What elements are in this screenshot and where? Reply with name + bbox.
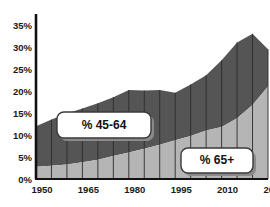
- callout-upper-label: % 45-64: [82, 118, 127, 132]
- y-tick-label: 15%: [13, 108, 33, 119]
- stacked-area-chart: 0%5%10%15%20%25%30%35% 19501965198019952…: [0, 0, 270, 207]
- x-tick-label: 1950: [31, 184, 52, 195]
- callout-upper: % 45-64: [57, 112, 154, 141]
- x-tick-label: 1995: [171, 184, 193, 195]
- y-tick-label: 30%: [13, 42, 33, 53]
- x-tick-label: 2010: [217, 184, 238, 195]
- chart-container: 0%5%10%15%20%25%30%35% 19501965198019952…: [0, 0, 270, 207]
- x-tick-label: 2025: [263, 184, 270, 195]
- y-axis-ticks: 0%5%10%15%20%25%30%35%: [13, 20, 33, 185]
- y-tick-label: 5%: [18, 152, 32, 163]
- x-tick-label: 1965: [78, 184, 100, 195]
- x-axis-ticks: 195019651980199520102025: [31, 184, 270, 195]
- y-tick-label: 10%: [13, 130, 33, 141]
- y-tick-label: 20%: [13, 86, 33, 97]
- x-tick-label: 1980: [124, 184, 145, 195]
- chart-title-remnant: [60, 0, 200, 6]
- y-tick-label: 35%: [13, 20, 33, 31]
- y-tick-label: 25%: [13, 64, 33, 75]
- callout-lower-label: % 65+: [200, 153, 234, 167]
- y-tick-label: 0%: [18, 174, 32, 185]
- callout-lower: % 65+: [181, 148, 256, 176]
